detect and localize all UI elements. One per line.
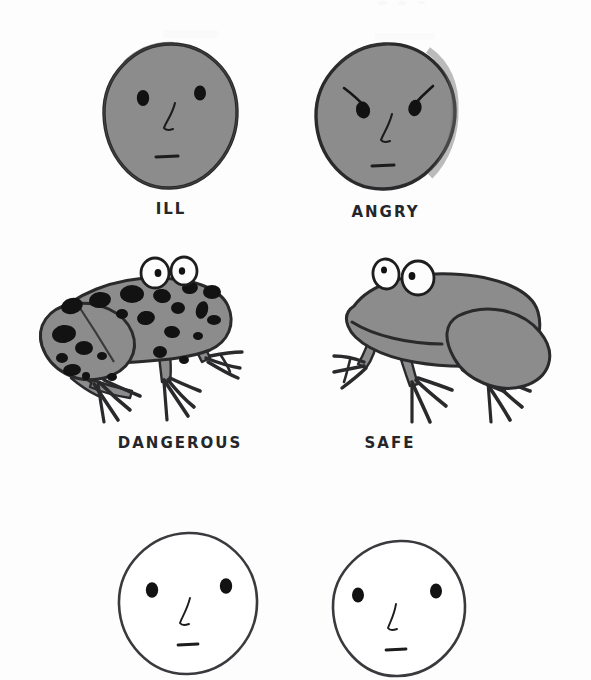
face-angry-drawing xyxy=(308,38,463,198)
frog-safe-drawing xyxy=(318,250,583,430)
face-angry-head xyxy=(316,44,455,189)
panel-frog-dangerous xyxy=(14,250,279,430)
face-blank-right-eye-right xyxy=(430,583,442,598)
caption-angry: ANGRY xyxy=(308,203,463,221)
panel-frog-safe xyxy=(318,250,583,430)
face-ill-eye-left xyxy=(137,90,149,106)
panel-face-blank-left xyxy=(110,528,270,678)
panel-face-ill xyxy=(96,36,246,196)
face-angry-mouth xyxy=(372,165,394,166)
panel-face-blank-right xyxy=(326,536,476,680)
caption-ill: ILL xyxy=(96,200,246,218)
face-blank-left-drawing xyxy=(110,528,270,678)
face-blank-left-eye-right xyxy=(220,578,232,594)
scan-artifact xyxy=(418,1,425,4)
face-ill-eye-right xyxy=(194,85,206,100)
face-ill-mouth xyxy=(156,156,178,157)
cartoon-sheet: ILL ANGRY xyxy=(0,0,591,680)
caption-safe: SAFE xyxy=(320,434,460,452)
face-blank-right-eye-left xyxy=(352,587,364,602)
scan-artifact xyxy=(398,1,406,5)
face-blank-right-head xyxy=(333,541,465,676)
frog-dangerous-drawing xyxy=(14,250,279,430)
scan-artifact xyxy=(378,1,387,5)
caption-dangerous: DANGEROUS xyxy=(90,434,270,452)
face-blank-right-mouth xyxy=(386,649,406,650)
face-blank-left-mouth xyxy=(178,644,198,645)
face-blank-left-eye-left xyxy=(146,582,158,598)
panel-face-angry xyxy=(308,38,463,198)
face-blank-right-drawing xyxy=(326,536,476,680)
face-ill-drawing xyxy=(96,36,246,196)
